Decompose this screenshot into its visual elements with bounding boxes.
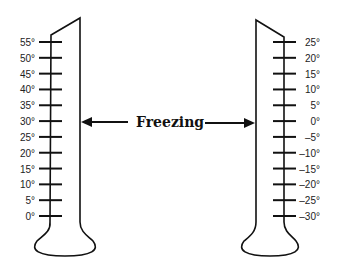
right-arrowhead-icon bbox=[244, 118, 255, 128]
scale-label: 30° bbox=[20, 116, 35, 127]
scale-label: 5° bbox=[310, 100, 320, 111]
scale-label: –15° bbox=[299, 164, 320, 175]
scale-label: 10° bbox=[20, 179, 35, 190]
scale-label: 10° bbox=[305, 84, 320, 95]
left-scale-labels: 55°50°45°40°35°30°25°20°15°10°5°0° bbox=[20, 37, 35, 222]
right-scale-labels: 25°20°15°10°5°0°–5°–10°–15°–20°–25°–30° bbox=[299, 37, 320, 222]
scale-label: 15° bbox=[305, 69, 320, 80]
scale-label: –20° bbox=[299, 179, 320, 190]
freezing-label: Freezing bbox=[136, 114, 204, 130]
scale-label: 0° bbox=[25, 211, 35, 222]
scale-label: –25° bbox=[299, 195, 320, 206]
left-arrowhead-icon bbox=[81, 117, 92, 127]
scale-label: 25° bbox=[20, 132, 35, 143]
scale-label: 45° bbox=[20, 69, 35, 80]
scale-label: 55° bbox=[20, 37, 35, 48]
scale-label: 5° bbox=[25, 195, 35, 206]
scale-label: 35° bbox=[20, 100, 35, 111]
scale-label: 20° bbox=[20, 148, 35, 159]
scale-label: –10° bbox=[299, 148, 320, 159]
scale-label: 25° bbox=[305, 37, 320, 48]
scale-label: –5° bbox=[305, 132, 320, 143]
right-thermometer-outline bbox=[242, 20, 299, 256]
scale-label: –30° bbox=[299, 211, 320, 222]
scale-label: 20° bbox=[305, 53, 320, 64]
scale-label: 50° bbox=[20, 53, 35, 64]
scale-label: 15° bbox=[20, 164, 35, 175]
thermometer-diagram: 55°50°45°40°35°30°25°20°15°10°5°0° 25°20… bbox=[0, 0, 342, 271]
scale-label: 0° bbox=[310, 116, 320, 127]
scale-label: 40° bbox=[20, 84, 35, 95]
